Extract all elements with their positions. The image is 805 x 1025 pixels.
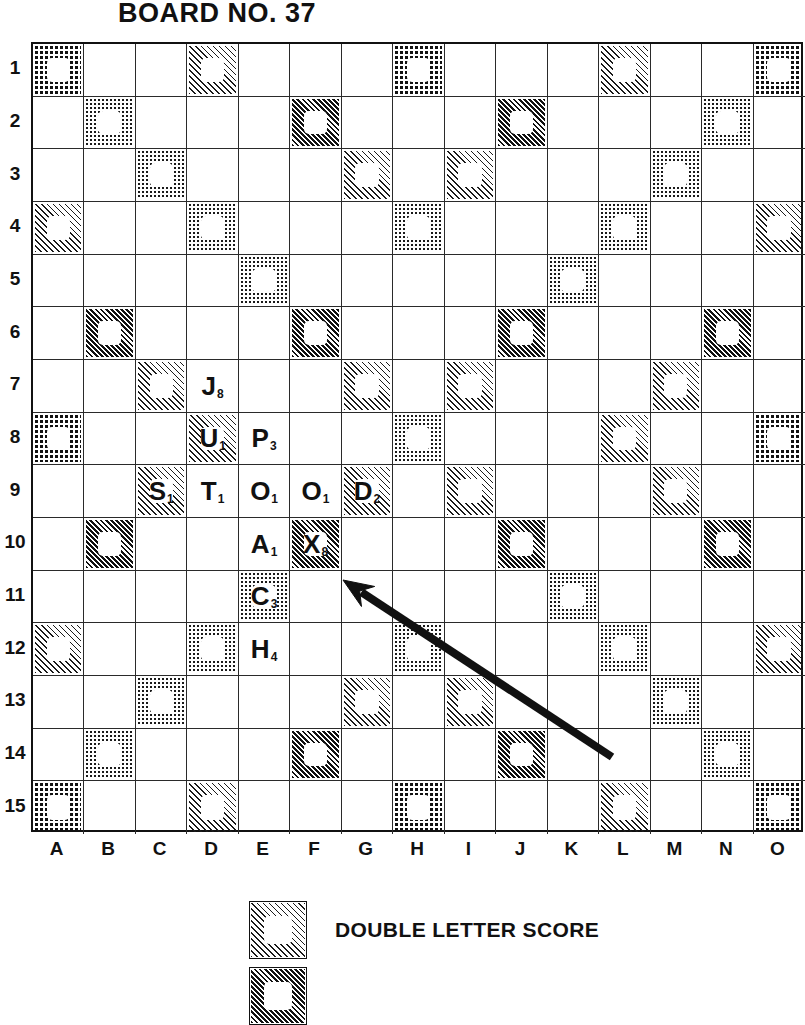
- board-cell-A14[interactable]: [33, 729, 84, 782]
- board-cell-D13[interactable]: [187, 676, 238, 729]
- letter-tile-D8[interactable]: U1: [187, 413, 237, 465]
- letter-tile-E10[interactable]: A1: [239, 518, 289, 570]
- letter-tile-E8[interactable]: P3: [239, 413, 289, 465]
- board-cell-K14[interactable]: [548, 729, 599, 782]
- board-cell-I2[interactable]: [445, 97, 496, 150]
- board-cell-C10[interactable]: [136, 518, 187, 571]
- board-cell-E3[interactable]: [239, 149, 290, 202]
- board-cell-M2[interactable]: [651, 97, 702, 150]
- board-cell-O15[interactable]: [754, 781, 805, 834]
- board-cell-L13[interactable]: [599, 676, 650, 729]
- board-cell-M6[interactable]: [651, 307, 702, 360]
- board-cell-D12[interactable]: [187, 623, 238, 676]
- board-cell-O9[interactable]: [754, 465, 805, 518]
- board-cell-E7[interactable]: [239, 360, 290, 413]
- board-cell-B15[interactable]: [84, 781, 135, 834]
- letter-tile-D9[interactable]: T1: [187, 465, 237, 517]
- board-cell-E8[interactable]: P3: [239, 413, 290, 466]
- board-cell-B9[interactable]: [84, 465, 135, 518]
- board-cell-J10[interactable]: [496, 518, 547, 571]
- board-cell-K8[interactable]: [548, 413, 599, 466]
- board-cell-N10[interactable]: [702, 518, 753, 571]
- board-cell-J1[interactable]: [496, 44, 547, 97]
- board-cell-J5[interactable]: [496, 255, 547, 308]
- board-cell-B6[interactable]: [84, 307, 135, 360]
- board-cell-H4[interactable]: [393, 202, 444, 255]
- board-cell-M1[interactable]: [651, 44, 702, 97]
- board-cell-B10[interactable]: [84, 518, 135, 571]
- board-cell-D14[interactable]: [187, 729, 238, 782]
- board-cell-M3[interactable]: [651, 149, 702, 202]
- board-cell-K15[interactable]: [548, 781, 599, 834]
- board-cell-B12[interactable]: [84, 623, 135, 676]
- board-cell-L12[interactable]: [599, 623, 650, 676]
- board-cell-H3[interactable]: [393, 149, 444, 202]
- board-cell-B1[interactable]: [84, 44, 135, 97]
- board-cell-F5[interactable]: [290, 255, 341, 308]
- board-cell-O8[interactable]: [754, 413, 805, 466]
- board-cell-F12[interactable]: [290, 623, 341, 676]
- board-cell-L7[interactable]: [599, 360, 650, 413]
- board-cell-H13[interactable]: [393, 676, 444, 729]
- board-cell-N6[interactable]: [702, 307, 753, 360]
- board-cell-B14[interactable]: [84, 729, 135, 782]
- board-cell-I7[interactable]: [445, 360, 496, 413]
- board-cell-A4[interactable]: [33, 202, 84, 255]
- board-cell-J15[interactable]: [496, 781, 547, 834]
- board-cell-N1[interactable]: [702, 44, 753, 97]
- board-cell-D5[interactable]: [187, 255, 238, 308]
- board-cell-H15[interactable]: [393, 781, 444, 834]
- board-cell-F6[interactable]: [290, 307, 341, 360]
- board-cell-N11[interactable]: [702, 571, 753, 624]
- board-cell-O14[interactable]: [754, 729, 805, 782]
- board-cell-G8[interactable]: [342, 413, 393, 466]
- board-cell-F4[interactable]: [290, 202, 341, 255]
- board-cell-O5[interactable]: [754, 255, 805, 308]
- board-cell-I12[interactable]: [445, 623, 496, 676]
- board-cell-C1[interactable]: [136, 44, 187, 97]
- board-cell-H10[interactable]: [393, 518, 444, 571]
- board-cell-J2[interactable]: [496, 97, 547, 150]
- board-cell-M10[interactable]: [651, 518, 702, 571]
- board-cell-E9[interactable]: O1: [239, 465, 290, 518]
- board-cell-L5[interactable]: [599, 255, 650, 308]
- board-cell-G15[interactable]: [342, 781, 393, 834]
- board-cell-O3[interactable]: [754, 149, 805, 202]
- board-cell-N7[interactable]: [702, 360, 753, 413]
- board-cell-C2[interactable]: [136, 97, 187, 150]
- board-cell-A3[interactable]: [33, 149, 84, 202]
- board-cell-J11[interactable]: [496, 571, 547, 624]
- board-cell-F7[interactable]: [290, 360, 341, 413]
- board-cell-E14[interactable]: [239, 729, 290, 782]
- board-cell-H11[interactable]: [393, 571, 444, 624]
- letter-tile-G9[interactable]: D2: [342, 465, 392, 517]
- board-cell-N4[interactable]: [702, 202, 753, 255]
- letter-tile-F10[interactable]: X8: [290, 518, 340, 570]
- board-cell-B5[interactable]: [84, 255, 135, 308]
- board-cell-J6[interactable]: [496, 307, 547, 360]
- board-cell-L4[interactable]: [599, 202, 650, 255]
- board-cell-O7[interactable]: [754, 360, 805, 413]
- board-cell-N5[interactable]: [702, 255, 753, 308]
- board-cell-C13[interactable]: [136, 676, 187, 729]
- board-cell-J13[interactable]: [496, 676, 547, 729]
- board-cell-M5[interactable]: [651, 255, 702, 308]
- board-cell-F3[interactable]: [290, 149, 341, 202]
- board-cell-A15[interactable]: [33, 781, 84, 834]
- board-cell-F2[interactable]: [290, 97, 341, 150]
- board-cell-K2[interactable]: [548, 97, 599, 150]
- board-cell-O6[interactable]: [754, 307, 805, 360]
- board-cell-B4[interactable]: [84, 202, 135, 255]
- board-cell-D2[interactable]: [187, 97, 238, 150]
- board-cell-F13[interactable]: [290, 676, 341, 729]
- board-cell-E13[interactable]: [239, 676, 290, 729]
- board-cell-C9[interactable]: S1: [136, 465, 187, 518]
- board-cell-G13[interactable]: [342, 676, 393, 729]
- board-cell-A9[interactable]: [33, 465, 84, 518]
- board-cell-E2[interactable]: [239, 97, 290, 150]
- board-cell-L10[interactable]: [599, 518, 650, 571]
- board-cell-I9[interactable]: [445, 465, 496, 518]
- board-cell-J9[interactable]: [496, 465, 547, 518]
- board-cell-E5[interactable]: [239, 255, 290, 308]
- letter-tile-E11[interactable]: C3: [239, 571, 289, 623]
